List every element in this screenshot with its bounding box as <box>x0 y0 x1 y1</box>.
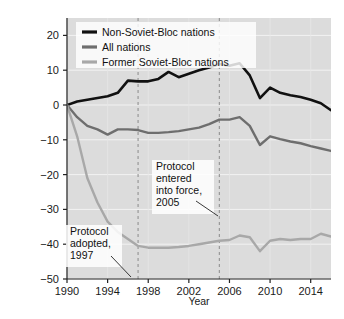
x-tick-label-1994: 1994 <box>95 285 119 297</box>
x-tick-label-1990: 1990 <box>55 285 79 297</box>
legend-label-1: All nations <box>102 41 150 53</box>
y-tick-label-10: 10 <box>47 64 59 76</box>
figure-container: 20100−10−20−30−40−50 1990199419982002200… <box>0 0 344 319</box>
annotation-line-protocol-entered-force-2: into force, <box>156 184 202 196</box>
y-tick-label-20: 20 <box>47 29 59 41</box>
x-tick-label-2014: 2014 <box>298 285 322 297</box>
annotation-line-protocol-entered-force-0: Protocol <box>156 160 195 172</box>
kyoto-protocol-line-chart: 20100−10−20−30−40−50 1990199419982002200… <box>0 0 344 319</box>
y-tick-label--50: −50 <box>40 273 59 285</box>
y-tick-label--10: −10 <box>40 134 59 146</box>
y-tick-label--20: −20 <box>40 169 59 181</box>
x-tick-label-2006: 2006 <box>217 285 241 297</box>
x-tick-label-1998: 1998 <box>136 285 160 297</box>
legend-label-2: Former Soviet-Bloc nations <box>102 56 229 68</box>
x-tick-label-2010: 2010 <box>258 285 282 297</box>
y-tick-label--40: −40 <box>40 238 59 250</box>
annotation-line-protocol-entered-force-3: 2005 <box>156 196 180 208</box>
annotation-line-protocol-adopted-1: adopted, <box>70 237 111 249</box>
annotation-line-protocol-adopted-2: 1997 <box>70 249 94 261</box>
chart-legend: Non-Soviet-Bloc nationsAll nationsFormer… <box>76 22 256 68</box>
annotation-line-protocol-adopted-0: Protocol <box>70 225 109 237</box>
y-tick-label--30: −30 <box>40 203 59 215</box>
legend-label-0: Non-Soviet-Bloc nations <box>102 26 215 38</box>
x-axis-title: Year <box>188 295 210 307</box>
y-tick-label-0: 0 <box>53 99 59 111</box>
annotation-line-protocol-entered-force-1: entered <box>156 172 192 184</box>
